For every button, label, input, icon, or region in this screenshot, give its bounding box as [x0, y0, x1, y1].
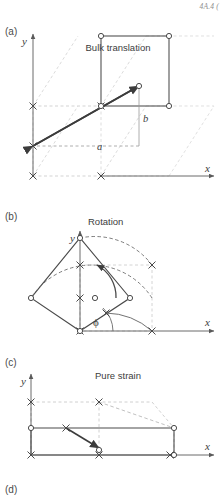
label-b-component: b — [143, 113, 148, 124]
panel-c-diagram: x y — [0, 360, 223, 480]
panel-c-displacement-arrow — [66, 428, 99, 448]
panel-b-diagram: ϕ x y — [0, 205, 223, 355]
panel-a-x-axis-label: x — [204, 162, 210, 174]
panel-c-o-markers — [28, 425, 176, 457]
translation-vector-tail — [33, 86, 139, 146]
panel-b-angle-label: ϕ — [93, 316, 99, 328]
panel-c-x-axis-label: x — [204, 440, 210, 452]
panel-a-displaced-cell — [101, 36, 169, 106]
panel-label-d: (d) — [5, 484, 17, 495]
panel-b-x-axis-label: x — [204, 316, 210, 328]
panel-b-rotation-arcs — [31, 236, 152, 298]
panel-a-o-markers — [98, 33, 171, 108]
panel-a-diagram: a b x y — [0, 0, 223, 200]
panel-c-deformed-cell — [31, 428, 174, 455]
panel-c-y-axis-label: y — [20, 375, 26, 387]
figure-page: 4A.4 ( (a) Bulk translation — [0, 0, 223, 497]
label-a-component: a — [97, 141, 102, 152]
panel-a-y-axis-label: y — [21, 35, 27, 47]
panel-b-y-axis-label: y — [69, 232, 75, 244]
